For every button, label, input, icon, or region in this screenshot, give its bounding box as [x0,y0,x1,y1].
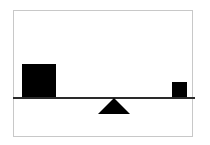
fulcrum-triangle-icon [98,98,130,114]
large-weight-block [22,64,56,97]
small-weight-block [172,82,187,97]
